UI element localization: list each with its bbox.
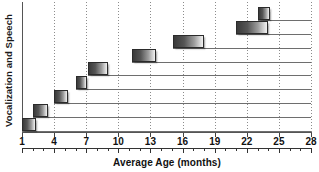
rail-tick-3 (43, 148, 44, 151)
chart-figure: Vocalization and Speech 1471013161922252… (0, 0, 319, 172)
x-tick-label-25: 25 (273, 136, 284, 147)
row-baseline (76, 89, 312, 90)
rail-tick-8 (97, 148, 98, 151)
rail-tick-14 (161, 148, 162, 151)
row-baseline (54, 103, 311, 104)
bar-row-6 (132, 49, 156, 62)
gridline-x-7 (86, 2, 87, 132)
x-tick-label-22: 22 (241, 136, 252, 147)
rail-tick-13 (150, 148, 151, 153)
x-axis-tick-rail (22, 148, 312, 155)
row-baseline (88, 75, 311, 76)
rail-tick-24 (268, 148, 269, 151)
x-tick-label-19: 19 (209, 136, 220, 147)
rail-tick-27 (300, 148, 301, 151)
rail-tick-19 (215, 148, 216, 153)
x-tick-label-10: 10 (113, 136, 124, 147)
row-baseline (22, 131, 311, 132)
rail-tick-7 (86, 148, 87, 153)
gridline-x-13 (150, 2, 151, 132)
x-tick-label-4: 4 (51, 136, 57, 147)
plot-area (22, 2, 312, 133)
rail-tick-6 (76, 148, 77, 151)
x-tick-label-7: 7 (83, 136, 89, 147)
rail-tick-17 (193, 148, 194, 151)
x-tick-label-28: 28 (305, 136, 316, 147)
bar-row-8 (236, 21, 268, 34)
row-baseline (236, 34, 311, 35)
rail-tick-16 (183, 148, 184, 153)
rail-tick-20 (225, 148, 226, 151)
rail-tick-4 (54, 148, 55, 153)
rail-tick-11 (129, 148, 130, 151)
gridline-x-16 (183, 2, 184, 132)
rail-tick-9 (108, 148, 109, 151)
bar-row-9 (258, 7, 271, 20)
bar-row-3 (54, 90, 68, 103)
rail-tick-28 (311, 148, 312, 153)
y-axis-spine (22, 2, 23, 133)
bar-row-4 (76, 76, 88, 89)
row-baseline (173, 48, 311, 49)
gridline-x-28 (311, 2, 312, 132)
rail-tick-15 (172, 148, 173, 151)
rail-tick-2 (33, 148, 34, 151)
rail-tick-1 (22, 148, 23, 153)
rail-tick-10 (118, 148, 119, 153)
rail-tick-12 (140, 148, 141, 151)
y-axis-title: Vocalization and Speech (0, 0, 16, 140)
rail-tick-26 (290, 148, 291, 151)
y-axis-title-text: Vocalization and Speech (3, 14, 14, 127)
gridline-x-19 (215, 2, 216, 132)
rail-tick-25 (279, 148, 280, 153)
x-tick-label-1: 1 (19, 136, 25, 147)
row-baseline (33, 117, 311, 118)
gridline-x-10 (118, 2, 119, 132)
rail-tick-22 (247, 148, 248, 153)
bar-row-1 (22, 118, 36, 131)
x-tick-label-16: 16 (177, 136, 188, 147)
bar-row-7 (173, 35, 204, 48)
row-baseline (132, 62, 311, 63)
rail-tick-23 (258, 148, 259, 151)
x-tick-label-13: 13 (145, 136, 156, 147)
rail-tick-21 (236, 148, 237, 151)
bar-row-5 (88, 62, 107, 75)
bar-row-2 (33, 104, 48, 117)
x-axis-title: Average Age (months) (22, 157, 312, 168)
x-axis-tick-labels: 14710131619222528 (22, 133, 312, 147)
gridline-x-25 (279, 2, 280, 132)
rail-tick-5 (65, 148, 66, 151)
rail-tick-18 (204, 148, 205, 151)
gridline-x-4 (54, 2, 55, 132)
